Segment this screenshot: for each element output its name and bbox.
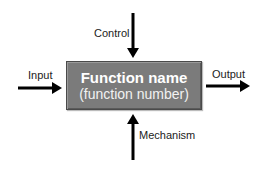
mechanism-arrow <box>127 114 139 160</box>
input-label: Input <box>28 69 52 81</box>
function-box: Function name (function number) <box>66 61 202 110</box>
input-arrow <box>18 82 62 94</box>
control-label: Control <box>94 27 129 39</box>
output-arrow <box>206 80 250 92</box>
mechanism-label: Mechanism <box>139 129 195 141</box>
function-number: (function number) <box>79 86 189 103</box>
function-name: Function name <box>81 69 188 86</box>
output-label: Output <box>212 68 245 80</box>
